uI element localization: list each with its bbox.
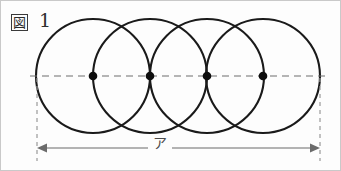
arrowhead-left-icon: [37, 144, 47, 153]
center-dot-2: [146, 72, 155, 81]
center-dot-1: [89, 72, 98, 81]
figure-number-label: 1: [39, 11, 51, 30]
figure-canvas: 図 1 ア: [0, 0, 341, 171]
dimension-label: ア: [148, 136, 172, 150]
center-dot-3: [203, 72, 212, 81]
center-dot-4: [259, 72, 268, 81]
figure-mark-label: 図: [11, 14, 28, 31]
arrowhead-right-icon: [310, 144, 320, 153]
